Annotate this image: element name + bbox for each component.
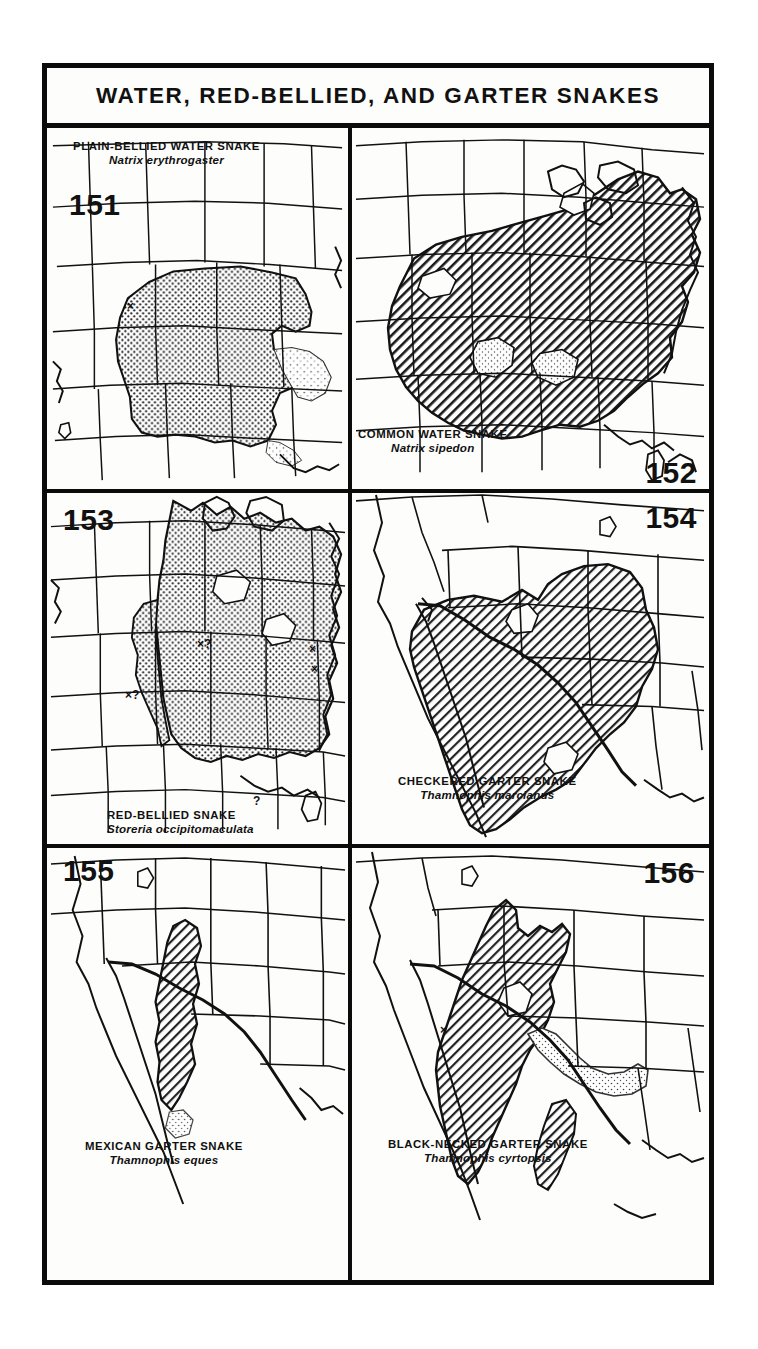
- plate-number-155: 155: [63, 856, 115, 886]
- plate-title-bar: WATER, RED-BELLIED, AND GARTER SNAKES: [47, 68, 709, 128]
- map-panel-151[interactable]: PLAIN-BELLIED WATER SNAKE Natrix erythro…: [47, 128, 352, 493]
- plate-number-152: 152: [645, 458, 697, 488]
- marker-xq-153-a: ×?: [197, 638, 211, 650]
- map-155-graphic: [47, 848, 348, 1280]
- plate-number-151: 151: [69, 190, 121, 220]
- map-154-graphic: [352, 493, 709, 844]
- marker-x-151: ×: [127, 300, 134, 312]
- plate-number-156: 156: [643, 858, 695, 888]
- marker-q-153: ?: [253, 795, 260, 807]
- plate-number-154: 154: [645, 503, 697, 533]
- marker-x-153-b: ×: [311, 663, 318, 675]
- page-title: WATER, RED-BELLIED, AND GARTER SNAKES: [96, 83, 660, 109]
- marker-xq-153-b: ×?: [125, 689, 139, 701]
- plate-frame: WATER, RED-BELLIED, AND GARTER SNAKES: [42, 63, 714, 1285]
- map-153-graphic: [47, 493, 348, 844]
- map-151-graphic: [47, 128, 348, 489]
- map-panel-154[interactable]: 154 CHECKERED GARTER SNAKE Thamnophis ma…: [352, 493, 709, 848]
- map-156-graphic: [352, 848, 709, 1280]
- map-panel-152[interactable]: COMMON WATER SNAKE Natrix sipedon 152: [352, 128, 709, 493]
- map-152-graphic: [352, 128, 709, 489]
- marker-x-153-a: ×: [309, 643, 316, 655]
- map-panel-156[interactable]: 156 × BLACK-NECKED GARTER SNAKE Thamnoph…: [352, 848, 709, 1280]
- plate-number-153: 153: [63, 505, 115, 535]
- page-canvas: WATER, RED-BELLIED, AND GARTER SNAKES: [0, 0, 758, 1349]
- map-panel-153[interactable]: 153 ×? ×? × × ? RED-BELLIED SNAKE Storer…: [47, 493, 352, 848]
- map-panel-155[interactable]: 155 MEXICAN GARTER SNAKE Thamnophis eque…: [47, 848, 352, 1280]
- marker-x-156: ×: [440, 1024, 447, 1036]
